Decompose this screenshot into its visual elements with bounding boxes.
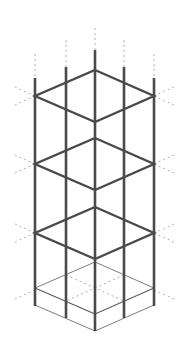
rebar-cage-diagram: Isometric column reinforcement cage on f…	[0, 0, 191, 349]
diagram-canvas	[0, 0, 191, 349]
